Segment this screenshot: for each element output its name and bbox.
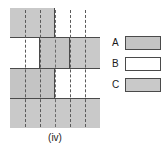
legend-label-a: A [112, 36, 125, 50]
grid-row-2 [10, 38, 100, 68]
legend-swatch-b [125, 57, 161, 71]
fraction-grid [10, 8, 100, 128]
figure-caption: (iv) [10, 132, 100, 144]
grid-cell-row2-right [70, 38, 100, 67]
grid-rows [10, 8, 100, 128]
figure-iv: (iv) A B C [0, 0, 168, 160]
grid-cell-row4-full [10, 99, 100, 128]
legend: A B C [112, 36, 166, 92]
grid-cell-row3-left [10, 69, 55, 98]
grid-cell-row2-middle [40, 38, 70, 67]
legend-swatch-a [125, 36, 161, 50]
legend-item-a: A [112, 36, 166, 50]
legend-item-b: B [112, 57, 166, 71]
grid-row-1 [10, 8, 100, 38]
grid-cell-row3-right [55, 69, 100, 98]
grid-cell-row1-left [10, 8, 55, 37]
legend-item-c: C [112, 78, 166, 92]
legend-swatch-c [125, 78, 161, 92]
legend-label-b: B [112, 57, 125, 71]
grid-row-4 [10, 99, 100, 128]
grid-cell-row1-right [55, 8, 100, 37]
grid-cell-row2-left [10, 38, 40, 67]
grid-row-3 [10, 69, 100, 99]
legend-label-c: C [112, 78, 125, 92]
